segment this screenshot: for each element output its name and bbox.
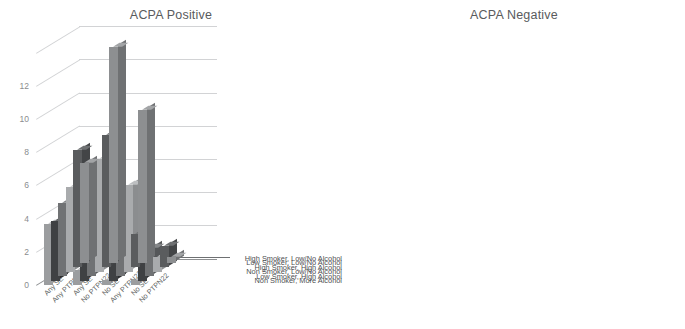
plot-area-left: 246810120Any SEAny PTPN22Any SENo PTPN22… — [0, 0, 342, 329]
y-axis-tick-label: 0 — [7, 280, 29, 290]
gridline-back — [79, 59, 217, 60]
panel-acpa-positive: ACPA Positive 246810120Any SEAny PTPN22A… — [0, 0, 342, 329]
plot-area-right: 246810120Any SEAny PTPN22Any SENo PTPN22… — [343, 0, 685, 329]
bar-front-face — [138, 110, 147, 263]
bar-3d[interactable] — [167, 257, 176, 263]
gridline-side — [36, 59, 80, 86]
bar-front-face — [102, 280, 111, 285]
y-axis-tick-label: 2 — [7, 247, 29, 257]
bar-3d[interactable] — [102, 280, 111, 285]
gridline-side — [36, 93, 80, 120]
bar-side-face — [89, 156, 97, 261]
gridline-back — [79, 26, 217, 27]
bar-3d[interactable] — [109, 47, 118, 263]
bar-3d[interactable] — [138, 110, 147, 263]
bar-front-face — [167, 257, 176, 263]
bar-3d[interactable] — [80, 163, 89, 263]
bar-3d[interactable] — [131, 280, 140, 285]
panel-acpa-negative: ACPA Negative 246810120Any SEAny PTPN22A… — [343, 0, 685, 329]
bar-side-face — [118, 40, 126, 261]
y-axis-tick-label: 6 — [7, 180, 29, 190]
gridline-back — [79, 93, 217, 94]
y-axis-tick-label: 8 — [7, 147, 29, 157]
y-axis-tick-label: 4 — [7, 214, 29, 224]
gridline-side — [36, 26, 80, 53]
y-axis-tick-label: 10 — [7, 114, 29, 124]
bar-front-face — [80, 163, 89, 263]
figure-two-panel-3d-bar-charts: ACPA Positive 246810120Any SEAny PTPN22A… — [0, 0, 685, 329]
bar-front-face — [109, 47, 118, 263]
depth-axis-series-label: Non Smoker, More Alcohol — [232, 276, 342, 285]
bar-side-face — [147, 103, 155, 261]
y-axis-tick-label: 12 — [7, 81, 29, 91]
bar-front-face — [131, 280, 140, 285]
